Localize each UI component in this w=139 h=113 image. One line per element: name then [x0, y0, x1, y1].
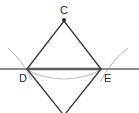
construction-canvas [0, 0, 139, 113]
point-label-c: C [60, 5, 68, 16]
ray-from-d-downward [27, 69, 62, 113]
segment-ce [64, 21, 101, 69]
ray-from-e-downward [66, 69, 101, 113]
point-c-marker-icon [62, 18, 66, 22]
segment-cd [27, 21, 64, 69]
point-label-e: E [104, 73, 111, 84]
arc-below-segment-de-icon [27, 70, 101, 79]
point-label-d: D [19, 73, 27, 84]
geometry-figure: C D E [0, 0, 139, 113]
